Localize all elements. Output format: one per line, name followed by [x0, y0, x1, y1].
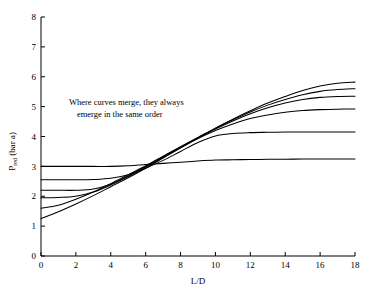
annotation-line-1: Where curves merge, they always	[69, 97, 184, 107]
y-axis-title-unit: (bar a)	[7, 132, 17, 158]
x-tick-label-6: 6	[143, 260, 148, 270]
x-tick-label-10: 10	[211, 260, 221, 270]
y-tick-label-4: 4	[32, 132, 37, 142]
y-axis-title-subscript: red	[12, 158, 18, 166]
y-tick-label-0: 0	[32, 251, 37, 261]
y-tick-label-1: 1	[32, 221, 37, 231]
annotation-line-2: emerge in the same order	[77, 109, 163, 119]
y-tick-label-7: 7	[32, 42, 37, 52]
x-tick-label-0: 0	[39, 260, 44, 270]
line-chart: 12345678 0246810121416180 L/DPred (bar a…	[0, 0, 372, 297]
x-tick-label-8: 8	[178, 260, 183, 270]
chart-container: 12345678 0246810121416180 L/DPred (bar a…	[0, 0, 372, 297]
y-tick-label-2: 2	[32, 191, 37, 201]
x-axis-title: L/D	[191, 276, 206, 286]
x-tick-label-12: 12	[246, 260, 255, 270]
x-tick-label-18: 18	[351, 260, 361, 270]
x-tick-label-2: 2	[74, 260, 79, 270]
x-tick-label-4: 4	[109, 260, 114, 270]
y-tick-label-5: 5	[32, 102, 37, 112]
y-tick-label-3: 3	[32, 162, 37, 172]
x-tick-label-14: 14	[281, 260, 291, 270]
y-tick-label-6: 6	[32, 72, 37, 82]
x-tick-label-16: 16	[316, 260, 326, 270]
y-tick-label-8: 8	[32, 12, 37, 22]
